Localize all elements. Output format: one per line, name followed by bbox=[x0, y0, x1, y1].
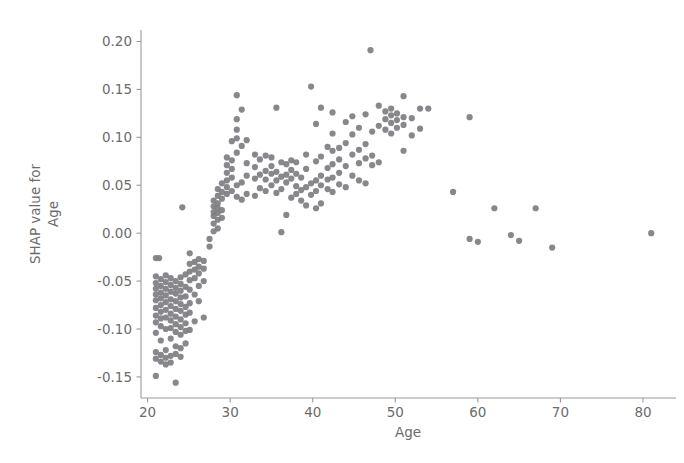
scatter-point bbox=[318, 153, 324, 159]
scatter-point bbox=[349, 131, 355, 137]
scatter-point bbox=[356, 147, 362, 153]
scatter-point bbox=[382, 127, 388, 133]
scatter-point bbox=[394, 110, 400, 116]
scatter-point bbox=[244, 173, 250, 179]
scatter-point bbox=[196, 298, 202, 304]
scatter-point bbox=[239, 106, 245, 112]
scatter-point bbox=[244, 160, 250, 166]
y-tick-label: -0.10 bbox=[97, 321, 132, 337]
x-tick-label: 80 bbox=[634, 404, 651, 420]
scatter-point bbox=[349, 113, 355, 119]
scatter-point bbox=[343, 119, 349, 125]
scatter-point bbox=[244, 191, 250, 197]
scatter-point bbox=[201, 314, 207, 320]
scatter-point bbox=[313, 158, 319, 164]
scatter-point bbox=[252, 151, 258, 157]
scatter-point bbox=[516, 238, 522, 244]
scatter-point bbox=[409, 132, 415, 138]
scatter-point bbox=[369, 128, 375, 134]
scatter-point bbox=[283, 212, 289, 218]
scatter-point bbox=[206, 236, 212, 242]
y-tick-label: 0.00 bbox=[102, 225, 132, 241]
scatter-point bbox=[293, 171, 299, 177]
scatter-point bbox=[168, 359, 174, 365]
scatter-point bbox=[409, 115, 415, 121]
scatter-point bbox=[178, 332, 184, 338]
scatter-point bbox=[329, 189, 335, 195]
scatter-point bbox=[293, 191, 299, 197]
scatter-point bbox=[329, 130, 335, 136]
scatter-point bbox=[168, 335, 174, 341]
x-tick-label: 40 bbox=[304, 404, 321, 420]
y-tick-label: -0.05 bbox=[97, 273, 132, 289]
scatter-point bbox=[201, 278, 207, 284]
scatter-point bbox=[288, 195, 294, 201]
x-tick-label: 70 bbox=[552, 404, 569, 420]
scatter-point bbox=[163, 292, 169, 298]
scatter-point bbox=[388, 120, 394, 126]
scatter-point bbox=[308, 192, 314, 198]
scatter-point bbox=[382, 108, 388, 114]
scatter-point bbox=[467, 236, 473, 242]
scatter-point bbox=[349, 173, 355, 179]
scatter-point bbox=[388, 105, 394, 111]
scatter-point bbox=[263, 168, 269, 174]
scatter-point bbox=[278, 229, 284, 235]
scatter-point bbox=[187, 327, 193, 333]
x-tick-label: 60 bbox=[469, 404, 486, 420]
scatter-point bbox=[219, 207, 225, 213]
scatter-point bbox=[308, 83, 314, 89]
scatter-point bbox=[168, 325, 174, 331]
scatter-point bbox=[187, 300, 193, 306]
scatter-point bbox=[400, 148, 406, 154]
scatter-point bbox=[388, 130, 394, 136]
scatter-point bbox=[187, 310, 193, 316]
scatter-point bbox=[263, 152, 269, 158]
scatter-point bbox=[234, 150, 240, 156]
scatter-point bbox=[356, 160, 362, 166]
scatter-point bbox=[179, 204, 185, 210]
scatter-point bbox=[318, 105, 324, 111]
scatter-point bbox=[273, 105, 279, 111]
scatter-point bbox=[367, 47, 373, 53]
scatter-point bbox=[362, 155, 368, 161]
scatter-point bbox=[394, 125, 400, 131]
scatter-point bbox=[168, 317, 174, 323]
scatter-point bbox=[369, 162, 375, 168]
scatter-point bbox=[336, 181, 342, 187]
y-axis-title-line2: Age bbox=[45, 201, 61, 227]
scatter-point bbox=[234, 127, 240, 133]
scatter-point bbox=[239, 143, 245, 149]
scatter-point bbox=[196, 283, 202, 289]
scatter-point bbox=[336, 156, 342, 162]
scatter-point bbox=[263, 188, 269, 194]
scatter-point bbox=[163, 347, 169, 353]
scatter-point bbox=[400, 122, 406, 128]
scatter-point bbox=[219, 196, 225, 202]
scatter-point bbox=[376, 103, 382, 109]
scatter-point bbox=[178, 316, 184, 322]
scatter-point bbox=[234, 116, 240, 122]
scatter-point bbox=[178, 288, 184, 294]
scatter-point bbox=[324, 165, 330, 171]
scatter-point bbox=[182, 320, 188, 326]
scatter-point bbox=[273, 190, 279, 196]
scatter-point bbox=[417, 126, 423, 132]
scatter-point bbox=[206, 243, 212, 249]
scatter-point bbox=[153, 330, 159, 336]
scatter-point bbox=[244, 137, 250, 143]
scatter-point bbox=[239, 179, 245, 185]
scatter-point bbox=[192, 318, 198, 324]
scatter-point bbox=[283, 172, 289, 178]
scatter-point bbox=[153, 319, 159, 325]
scatter-point bbox=[549, 244, 555, 250]
scatter-point bbox=[288, 167, 294, 173]
scatter-point bbox=[156, 255, 162, 261]
scatter-point bbox=[153, 373, 159, 379]
shap-scatter-figure: 20304050607080 -0.15-0.10-0.050.000.050.… bbox=[0, 0, 684, 463]
scatter-point bbox=[425, 105, 431, 111]
scatter-point bbox=[224, 184, 230, 190]
scatter-point bbox=[450, 189, 456, 195]
scatter-point bbox=[298, 197, 304, 203]
scatter-point bbox=[400, 114, 406, 120]
